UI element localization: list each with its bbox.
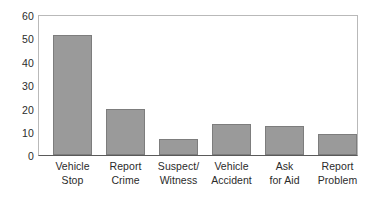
x-cat-line-2: Accident <box>202 174 261 188</box>
bar-vehicle-accident <box>212 124 251 155</box>
x-cat-line-1: Vehicle <box>202 160 261 174</box>
bar-rect <box>318 134 357 155</box>
bar-rect <box>53 35 92 156</box>
x-cat-line-2: Crime <box>96 174 155 188</box>
y-tick-label-10: 10 <box>0 128 34 139</box>
x-cat-line-2: for Aid <box>255 174 314 188</box>
x-cat-line-2: Witness <box>149 174 208 188</box>
y-tick-label-20: 20 <box>0 105 34 116</box>
bar-rect <box>212 124 251 155</box>
x-cat-label-report-problem: Report Problem <box>308 160 367 187</box>
bars-layer <box>39 16 357 155</box>
bar-report-crime <box>106 109 145 155</box>
bar-chart-figure: 60 50 40 30 20 10 0 Vehicle St <box>0 0 376 202</box>
bar-ask-for-aid <box>265 126 304 155</box>
bar-rect <box>106 109 145 155</box>
bar-vehicle-stop <box>53 35 92 156</box>
x-cat-label-suspect-witness: Suspect/ Witness <box>149 160 208 187</box>
x-cat-line-1: Suspect/ <box>149 160 208 174</box>
bar-rect <box>159 139 198 155</box>
x-cat-label-vehicle-stop: Vehicle Stop <box>43 160 102 187</box>
x-cat-line-1: Vehicle <box>43 160 102 174</box>
y-tick-label-50: 50 <box>0 34 34 45</box>
x-cat-line-2: Problem <box>308 174 367 188</box>
x-cat-label-report-crime: Report Crime <box>96 160 155 187</box>
x-cat-line-1: Report <box>308 160 367 174</box>
x-cat-label-vehicle-accident: Vehicle Accident <box>202 160 261 187</box>
y-tick-label-0: 0 <box>0 151 34 162</box>
bar-suspect-witness <box>159 139 198 155</box>
x-cat-label-ask-for-aid: Ask for Aid <box>255 160 314 187</box>
x-cat-line-2: Stop <box>43 174 102 188</box>
y-tick-label-30: 30 <box>0 81 34 92</box>
x-cat-line-1: Report <box>96 160 155 174</box>
y-tick-label-40: 40 <box>0 58 34 69</box>
x-cat-line-1: Ask <box>255 160 314 174</box>
x-axis: Vehicle Stop Report Crime Suspect/ Witne… <box>39 160 357 200</box>
y-tick-label-60: 60 <box>0 11 34 22</box>
bar-report-problem <box>318 134 357 155</box>
bar-rect <box>265 126 304 155</box>
y-axis: 60 50 40 30 20 10 0 <box>0 0 34 202</box>
